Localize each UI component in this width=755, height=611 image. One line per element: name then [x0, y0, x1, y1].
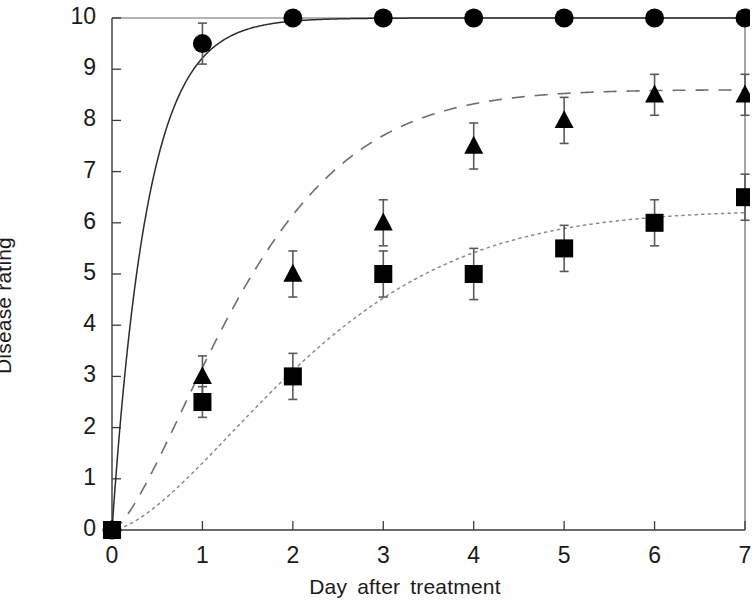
data-series-triangle: [103, 74, 751, 537]
data-point-square: [736, 188, 750, 206]
y-tick-label: 8: [46, 105, 96, 132]
y-tick-label: 5: [46, 259, 96, 286]
data-point-square: [103, 521, 121, 539]
x-tick-label: 5: [544, 542, 584, 569]
y-tick-label: 0: [46, 515, 96, 542]
data-point-square: [193, 393, 211, 411]
x-axis-title-text: Day after treatment: [249, 575, 501, 599]
y-tick-label: 6: [46, 208, 96, 235]
y-tick-label: 1: [46, 464, 96, 491]
data-point-circle: [464, 9, 483, 28]
data-point-circle: [283, 9, 302, 28]
fitted-curve-dotted: [112, 213, 745, 530]
x-tick-label: 2: [273, 542, 313, 569]
data-point-circle: [374, 9, 393, 28]
y-axis-title: Disease rating: [6, 0, 46, 611]
y-axis-title-text: Disease rating: [0, 237, 24, 374]
data-point-triangle: [736, 85, 751, 103]
data-point-square: [284, 367, 302, 385]
y-tick-label: 3: [46, 361, 96, 388]
y-tick-label: 2: [46, 413, 96, 440]
data-point-circle: [736, 9, 751, 28]
data-point-triangle: [464, 136, 483, 154]
data-point-circle: [193, 34, 212, 53]
data-point-triangle: [283, 264, 302, 282]
data-point-triangle: [374, 213, 393, 231]
data-point-square: [374, 265, 392, 283]
y-tick-label: 10: [46, 3, 96, 30]
data-point-circle: [645, 9, 664, 28]
data-point-triangle: [645, 85, 664, 103]
data-point-square: [646, 214, 664, 232]
y-tick-label: 4: [46, 310, 96, 337]
data-point-triangle: [555, 110, 574, 128]
fitted-curve-dashed: [112, 90, 745, 530]
x-tick-label: 3: [363, 542, 403, 569]
x-axis-title: Day after treatment: [0, 575, 750, 599]
x-tick-label: 0: [92, 542, 132, 569]
x-tick-label: 1: [182, 542, 222, 569]
x-tick-label: 4: [454, 542, 494, 569]
data-point-circle: [555, 9, 574, 28]
y-tick-label: 9: [46, 54, 96, 81]
x-tick-label: 7: [725, 542, 755, 569]
data-point-square: [465, 265, 483, 283]
x-tick-label: 6: [635, 542, 675, 569]
y-tick-label: 7: [46, 157, 96, 184]
data-point-triangle: [193, 366, 212, 384]
data-point-square: [555, 239, 573, 257]
